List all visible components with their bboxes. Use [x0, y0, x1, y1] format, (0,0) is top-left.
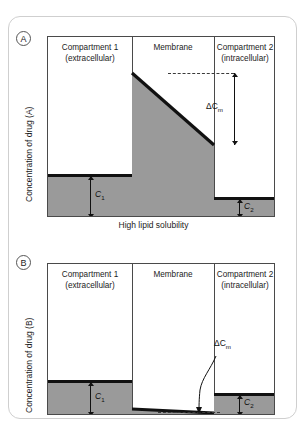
figure-card: A Concentration of drug (A) Compartment … — [8, 16, 297, 419]
panel-a: A Concentration of drug (A) Compartment … — [9, 17, 298, 235]
panel-b-delta-cm-label: ΔCm — [214, 338, 231, 350]
panel-b-c1-arrow — [90, 382, 91, 415]
panel-b-column-header-compartment-1: Compartment 1 (extracellular) — [48, 269, 132, 291]
panel-a-y-axis-label: Concentration of drug (A) — [24, 107, 34, 202]
panel-a-c2-arrow — [239, 199, 240, 217]
column-header-line1: Compartment 1 — [48, 269, 132, 280]
panel-a-plot: Compartment 1 (extracellular) Membrane C… — [47, 36, 275, 217]
panel-b-c1-label: C1 — [95, 391, 105, 403]
panel-b-plot: Compartment 1 (extracellular) Membrane C… — [47, 263, 275, 415]
column-header-line2: (extracellular) — [48, 53, 132, 64]
panel-b-c2-arrow — [239, 395, 240, 415]
panel-a-membrane-gradient — [132, 37, 215, 217]
panel-b-y-axis-label: Concentration of drug (B) — [24, 318, 34, 413]
panel-b-delta-cm-leader — [158, 342, 230, 415]
panel-a-tag: A — [16, 31, 31, 46]
column-header-line1: Compartment 2 — [214, 42, 275, 53]
panel-a-delta-cm-arrow — [234, 73, 235, 145]
panel-a-delta-cm-label: ΔCm — [206, 101, 223, 113]
panel-a-caption: High lipid solubility — [9, 220, 298, 230]
column-header-line1: Compartment 1 — [48, 42, 132, 53]
column-header-line2: (intracellular) — [214, 280, 275, 291]
panel-a-dashed-top — [168, 73, 234, 74]
panel-a-column-header-compartment-2: Compartment 2 (intracellular) — [214, 42, 275, 64]
panel-a-c2-label: C2 — [244, 201, 254, 213]
column-header-line2: (extracellular) — [48, 280, 132, 291]
panel-a-c1-arrow — [90, 176, 91, 217]
panel-a-compartment2-surface — [214, 197, 275, 200]
panel-b-tag: B — [16, 255, 31, 270]
column-header-line1: Compartment 2 — [214, 269, 275, 280]
panel-b-c2-label: C2 — [244, 397, 254, 409]
column-header-line2: (intracellular) — [214, 53, 275, 64]
panel-a-c1-label: C1 — [95, 189, 105, 201]
panel-b: B Concentration of drug (B) Compartment … — [9, 235, 298, 420]
panel-a-column-header-compartment-1: Compartment 1 (extracellular) — [48, 42, 132, 64]
panel-b-column-header-compartment-2: Compartment 2 (intracellular) — [214, 269, 275, 291]
